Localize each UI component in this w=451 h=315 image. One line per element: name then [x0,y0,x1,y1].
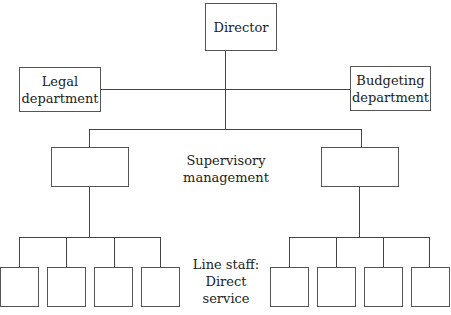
line-staff-label: Line staff: Direct service [180,256,272,307]
staff-connector-line [100,89,350,90]
left-group-branch-line [19,237,161,238]
line-staff-box [270,267,309,307]
right-drop-1 [289,237,290,267]
supervisory-drop-left [89,129,90,147]
supervisory-branch-line [89,129,362,130]
director-box: Director [205,3,277,51]
supervisory-label-line1: Supervisory [180,152,272,169]
director-label: Director [213,19,268,36]
legal-label-line2: department [21,90,98,107]
legal-department-box: Legal department [19,67,101,112]
line-staff-box [141,267,180,307]
line-staff-box [94,267,133,307]
left-drop-3 [114,237,115,267]
supervisory-label-line2: management [180,169,272,186]
budgeting-department-box: Budgeting department [350,66,431,111]
supervisory-management-label: Supervisory management [180,152,272,186]
line-staff-box [317,267,356,307]
line-staff-box [47,267,86,307]
line-staff-box [411,267,450,307]
budgeting-label-line2: department [352,89,429,106]
main-trunk-line [225,51,226,130]
supervisory-box-left [51,147,129,187]
legal-label-line1: Legal [21,73,98,90]
line-staff-box [0,267,39,307]
left-drop-2 [66,237,67,267]
left-group-stem [89,187,90,237]
supervisory-box-right [321,147,399,187]
line-staff-box [364,267,403,307]
right-drop-2 [336,237,337,267]
right-group-stem [359,187,360,237]
right-group-branch-line [289,237,430,238]
right-drop-4 [429,237,430,267]
right-drop-3 [383,237,384,267]
line-staff-label-line1: Line staff: [180,256,272,273]
line-staff-label-line2: Direct service [180,273,272,307]
left-drop-1 [19,237,20,267]
left-drop-4 [160,237,161,267]
budgeting-label-line1: Budgeting [352,72,429,89]
supervisory-drop-right [361,129,362,147]
